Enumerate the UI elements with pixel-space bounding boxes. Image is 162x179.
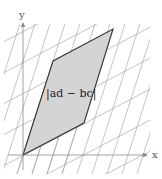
y-axis-label: y	[18, 9, 25, 20]
area-label: |ad − bc|	[46, 87, 96, 101]
determinant-diagram: x y |ad − bc|	[0, 0, 162, 179]
x-axis-label: x	[152, 149, 158, 160]
